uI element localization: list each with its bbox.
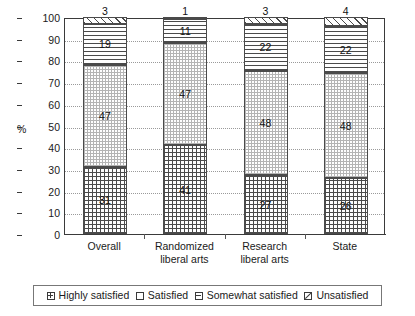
bar-segment[interactable]: 47: [83, 65, 127, 167]
y-tick-mark: [17, 192, 22, 193]
bar-segment[interactable]: 48: [244, 71, 288, 175]
bar-segment[interactable]: 19: [83, 24, 127, 65]
legend-item-unsatisfied[interactable]: Unsatisfied: [304, 290, 368, 301]
chart-container: % 1009080706050403020100 314719341471112…: [0, 0, 415, 316]
y-tick-mark: [17, 18, 22, 19]
bar-segment-value: 3: [101, 6, 109, 16]
y-tick-mark: [17, 61, 22, 62]
bar-segment-value: 1: [181, 6, 189, 16]
y-tick-label: 30: [26, 165, 60, 175]
highly-satisfied-swatch-icon: [47, 292, 55, 300]
bar-segment[interactable]: 1: [163, 17, 207, 19]
bar-segment-value: 48: [339, 121, 353, 131]
bar-segment-value: 31: [98, 195, 112, 205]
bar-segment[interactable]: 3: [83, 17, 127, 24]
bar-segment[interactable]: 22: [324, 26, 368, 74]
y-axis-line: [64, 18, 65, 235]
y-tick-mark: [17, 105, 22, 106]
y-tick-label: 60: [26, 100, 60, 110]
unsatisfied-swatch-icon: [304, 292, 312, 300]
satisfied-swatch-icon: [136, 292, 144, 300]
stacked-bar[interactable]: 3147193: [83, 17, 127, 234]
bar-segment-value: 22: [259, 42, 273, 52]
legend-item-satisfied[interactable]: Satisfied: [136, 290, 188, 301]
legend-item-somewhat-satisfied[interactable]: Somewhat satisfied: [195, 290, 298, 301]
y-tick-label: 80: [26, 56, 60, 66]
bar-segment[interactable]: 27: [244, 175, 288, 234]
bar-segment[interactable]: 22: [244, 24, 288, 72]
y-axis: 1009080706050403020100: [22, 0, 60, 316]
stacked-bar[interactable]: 2748223: [244, 17, 288, 234]
bar-segment-value: 3: [262, 6, 270, 16]
bar-segment-value: 19: [98, 39, 112, 49]
y-tick-label: 90: [26, 35, 60, 45]
x-tick-mark: [225, 234, 226, 239]
bar-segment[interactable]: 3: [244, 17, 288, 24]
x-category-line: liberal arts: [210, 253, 320, 266]
y-tick-label: 40: [26, 143, 60, 153]
legend-label: Highly satisfied: [59, 290, 130, 301]
y-tick-label: 100: [26, 13, 60, 23]
y-tick-mark: [17, 213, 22, 214]
y-tick-mark: [17, 127, 22, 128]
stacked-bar[interactable]: 4147111: [163, 17, 207, 234]
x-category-line: State: [290, 240, 400, 253]
bar-segment-value: 26: [339, 201, 353, 211]
y-tick-mark: [17, 170, 22, 171]
x-category-label: State: [290, 240, 400, 253]
bar-segment[interactable]: 47: [163, 43, 207, 145]
bar-segment-value: 11: [179, 26, 192, 36]
bar-segment[interactable]: 11: [163, 19, 207, 43]
y-tick-mark: [17, 40, 22, 41]
bars-layer: 3147193414711127482232648224: [65, 19, 384, 234]
bar-segment-value: 47: [178, 89, 192, 99]
bar-segment-value: 22: [339, 45, 353, 55]
bar-segment[interactable]: 41: [163, 145, 207, 234]
y-tick-label: 20: [26, 187, 60, 197]
x-tick-mark: [144, 234, 145, 239]
legend-item-highly-satisfied[interactable]: Highly satisfied: [47, 290, 130, 301]
y-tick-label: 0: [26, 230, 60, 240]
y-tick-mark: [17, 235, 22, 236]
bar-segment-value: 48: [259, 118, 273, 128]
bar-segment-value: 41: [178, 185, 192, 195]
bar-segment[interactable]: 48: [324, 73, 368, 177]
bar-segment[interactable]: 31: [83, 167, 127, 234]
bar-segment[interactable]: 26: [324, 178, 368, 234]
y-tick-label: 50: [26, 122, 60, 132]
bar-segment-value: 27: [259, 200, 273, 210]
bar-segment-value: 47: [98, 111, 112, 121]
bar-segment[interactable]: 4: [324, 17, 368, 26]
y-tick-mark: [17, 83, 22, 84]
somewhat-satisfied-swatch-icon: [195, 292, 203, 300]
legend-label: Unsatisfied: [316, 290, 368, 301]
legend-label: Satisfied: [148, 290, 188, 301]
legend-label: Somewhat satisfied: [207, 290, 298, 301]
chart-legend: Highly satisfied Satisfied Somewhat sati…: [33, 285, 382, 306]
y-tick-mark: [17, 148, 22, 149]
y-tick-label: 10: [26, 208, 60, 218]
bar-segment-value: 4: [342, 6, 350, 16]
x-tick-mark: [305, 234, 306, 239]
y-tick-label: 70: [26, 78, 60, 88]
plot-area: 3147193414711127482232648224: [64, 18, 385, 235]
stacked-bar[interactable]: 2648224: [324, 17, 368, 234]
